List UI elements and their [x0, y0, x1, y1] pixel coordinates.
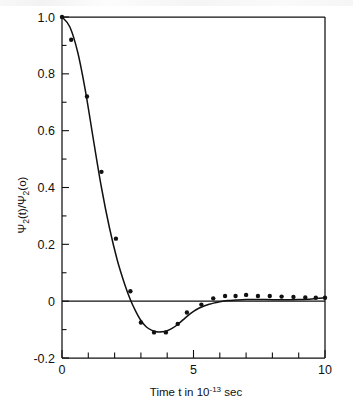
x-tick-label-10: 10	[318, 363, 332, 377]
y-axis-tick-labels: -0.200.20.40.60.81.0	[33, 11, 55, 366]
data-point	[114, 236, 118, 240]
y-axis-ticks	[62, 17, 69, 358]
y-tick-label-1.0: 1.0	[38, 11, 55, 25]
data-point	[279, 294, 283, 298]
data-point	[69, 38, 73, 42]
x-axis-tick-labels: 0510	[59, 363, 332, 377]
scan-artifact-band	[0, 0, 353, 6]
data-point	[314, 296, 318, 300]
data-point	[185, 310, 189, 314]
data-point	[244, 293, 248, 297]
data-point	[223, 294, 227, 298]
y-tick-label-0.6: 0.6	[38, 124, 55, 138]
y-tick-label-0.2: 0.2	[38, 238, 55, 252]
data-point	[199, 302, 203, 306]
data-point	[211, 296, 215, 300]
data-point	[128, 289, 132, 293]
data-point	[233, 294, 237, 298]
x-tick-label-0: 0	[59, 363, 66, 377]
figure-container: -0.200.20.40.60.81.0 0510 Ψ2(t)/Ψ2(o) Ti…	[0, 0, 353, 413]
data-point	[99, 170, 103, 174]
y-tick-label-0.8: 0.8	[38, 67, 55, 81]
data-point	[164, 330, 168, 334]
y-tick-label-0.4: 0.4	[38, 181, 55, 195]
x-tick-label-5: 5	[190, 363, 197, 377]
data-point	[60, 15, 64, 19]
data-point	[323, 296, 327, 300]
data-point	[303, 295, 307, 299]
y-axis-label: Ψ2(t)/Ψ2(o)	[16, 176, 31, 233]
data-point	[256, 294, 260, 298]
fitted-curve	[62, 17, 325, 332]
x-axis-ticks	[62, 350, 325, 358]
data-point	[152, 330, 156, 334]
data-point	[291, 295, 295, 299]
data-point	[176, 322, 180, 326]
x-axis-label: Time t in 10-13 sec	[150, 385, 243, 398]
y-tick-label-0: 0	[48, 295, 55, 309]
y-tick-label--0.2: -0.2	[33, 352, 55, 366]
correlation-function-plot: -0.200.20.40.60.81.0 0510 Ψ2(t)/Ψ2(o) Ti…	[0, 0, 353, 413]
data-point	[139, 320, 143, 324]
data-point	[268, 294, 272, 298]
svg-text:Ψ2(t)/Ψ2(o): Ψ2(t)/Ψ2(o)	[16, 176, 31, 233]
data-point	[85, 94, 89, 98]
